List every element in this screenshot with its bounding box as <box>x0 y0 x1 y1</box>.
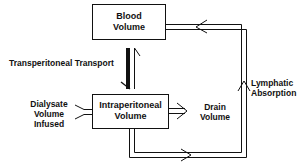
lymph-line1: Lymphatic <box>251 78 296 88</box>
lymphatic-absorption-label: Lymphatic Absorption <box>251 78 296 98</box>
dialysate-infused-arrow <box>75 105 92 119</box>
intraperitoneal-volume-line2: Volume <box>92 111 169 122</box>
intraperitoneal-volume-line1: Intraperitoneal <box>92 100 169 111</box>
transport-arrow-up <box>135 48 141 89</box>
lymphatic-route <box>130 20 251 161</box>
dialysate-volume-infused-label: Dialysate Volume Infused <box>28 99 70 129</box>
drain-arrow <box>169 103 187 119</box>
transperitoneal-transport-label: Transperitoneal Transport <box>9 58 114 68</box>
lymph-line2: Absorption <box>251 88 296 98</box>
blood-volume-label: Blood Volume <box>92 11 166 33</box>
dialysate-line1: Dialysate <box>28 99 70 109</box>
drain-line2: Volume <box>195 112 235 122</box>
dialysate-line2: Volume <box>28 109 70 119</box>
dialysate-line3: Infused <box>28 119 70 129</box>
blood-volume-line2: Volume <box>92 22 166 33</box>
drain-line1: Drain <box>195 102 235 112</box>
transport-arrow-down <box>121 48 130 89</box>
intraperitoneal-volume-label: Intraperitoneal Volume <box>92 100 169 122</box>
blood-volume-line1: Blood <box>92 11 166 22</box>
drain-volume-label: Drain Volume <box>195 102 235 122</box>
